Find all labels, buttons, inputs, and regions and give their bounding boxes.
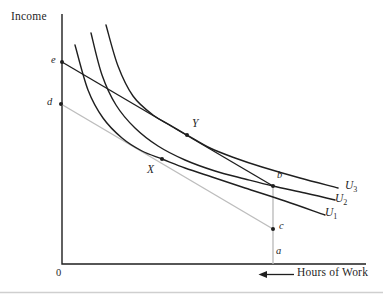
- curve-label-u3: U3: [345, 180, 357, 192]
- axes: [62, 14, 366, 264]
- curve-label-u1: U1: [325, 207, 337, 219]
- point-label-y: Y: [192, 118, 198, 130]
- point-dot-d: [59, 102, 63, 106]
- point-label-c: c: [279, 221, 284, 232]
- point-dot-c: [271, 227, 275, 231]
- hours-arrow-head-icon: [259, 271, 268, 278]
- point-label-b: b: [277, 170, 282, 181]
- point-dot-e: [60, 60, 64, 64]
- indifference-curve-u2: [91, 33, 335, 200]
- curve-label-u2: U2: [335, 193, 347, 205]
- figure-canvas: [0, 0, 383, 301]
- origin-label: 0: [56, 268, 61, 279]
- point-label-x: X: [147, 164, 154, 176]
- x-axis-label: Hours of Work: [297, 267, 368, 279]
- y-axis-label: Income: [11, 11, 47, 23]
- point-dot-x: [160, 157, 164, 161]
- point-dot-y: [185, 133, 189, 137]
- indifference-curve-u3: [106, 25, 338, 188]
- economics-figure: Income e d X Y b c a U3 U2 U1 0 Hours of…: [0, 0, 383, 301]
- point-label-a: a: [276, 246, 281, 257]
- point-label-e: e: [51, 55, 56, 66]
- point-dot-b: [271, 184, 275, 188]
- point-label-d: d: [47, 97, 52, 108]
